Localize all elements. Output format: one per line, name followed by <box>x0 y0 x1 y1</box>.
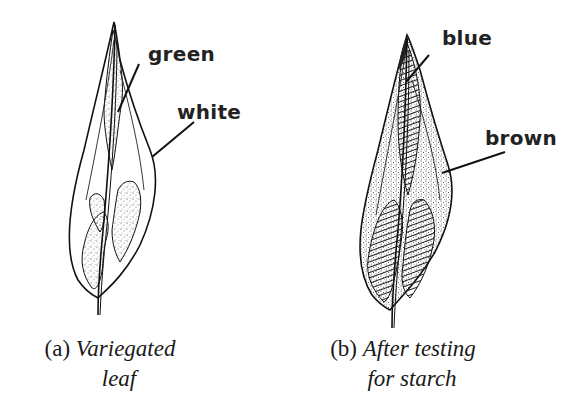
caption-a-marker: (a) <box>45 336 71 361</box>
caption-a-line1: Variegated <box>76 336 176 361</box>
caption-b-line2: for starch <box>318 364 488 394</box>
caption-b: (b) After testing for starch <box>318 334 488 394</box>
caption-a-line2: leaf <box>20 364 200 394</box>
pointer-white <box>152 122 194 157</box>
caption-b-line1: After testing <box>363 336 476 361</box>
label-brown: brown <box>485 126 557 150</box>
pointer-brown <box>442 152 505 173</box>
leaf-b-illustration <box>360 35 505 328</box>
label-white: white <box>177 100 241 124</box>
label-blue: blue <box>442 26 492 50</box>
caption-a: (a) Variegated leaf <box>20 334 200 394</box>
caption-b-marker: (b) <box>330 336 357 361</box>
label-green: green <box>148 42 215 66</box>
